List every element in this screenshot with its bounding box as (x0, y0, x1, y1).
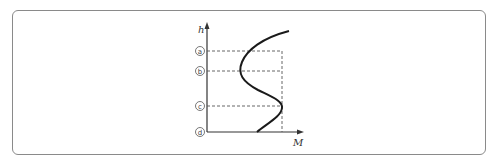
y-axis-arrow-icon (205, 22, 210, 29)
level-label-b: b (196, 67, 205, 76)
level-label-c: c (196, 102, 205, 111)
y-axis-label: h (198, 24, 204, 35)
svg-text:c: c (198, 103, 202, 111)
svg-text:d: d (198, 129, 202, 137)
x-axis-arrow-icon (297, 130, 304, 135)
magnetization-height-diagram: h M a b c d (0, 0, 500, 166)
dashed-guides (207, 51, 282, 132)
level-label-a: a (196, 47, 205, 56)
svg-text:a: a (198, 48, 202, 56)
x-axis-label: M (292, 137, 304, 148)
svg-text:b: b (198, 68, 203, 76)
level-label-d: d (196, 128, 205, 137)
